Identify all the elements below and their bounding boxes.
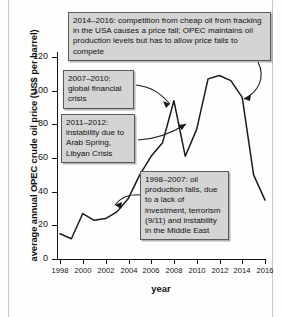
annotation-financial-crisis: 2007–2010: global financial crisis	[63, 70, 134, 109]
annotation-production-fall: 1998–2007: oil production falls, due to …	[140, 171, 229, 240]
annotation-fracking: 2014–2016: competition from cheap oil fr…	[68, 12, 271, 61]
arrow-financial	[136, 85, 170, 108]
figure-page: 120 100 80 60 40 20 0 1998 2000 2002 200…	[0, 0, 283, 317]
arrow-arabspring	[138, 124, 186, 140]
line-chart: 120 100 80 60 40 20 0 1998 2000 2002 200…	[0, 0, 283, 317]
arrow-fracking	[244, 62, 261, 101]
arrow-production	[115, 195, 140, 209]
annotation-arab-spring: 2011–2012: instability due to Arab Sprin…	[61, 114, 135, 163]
